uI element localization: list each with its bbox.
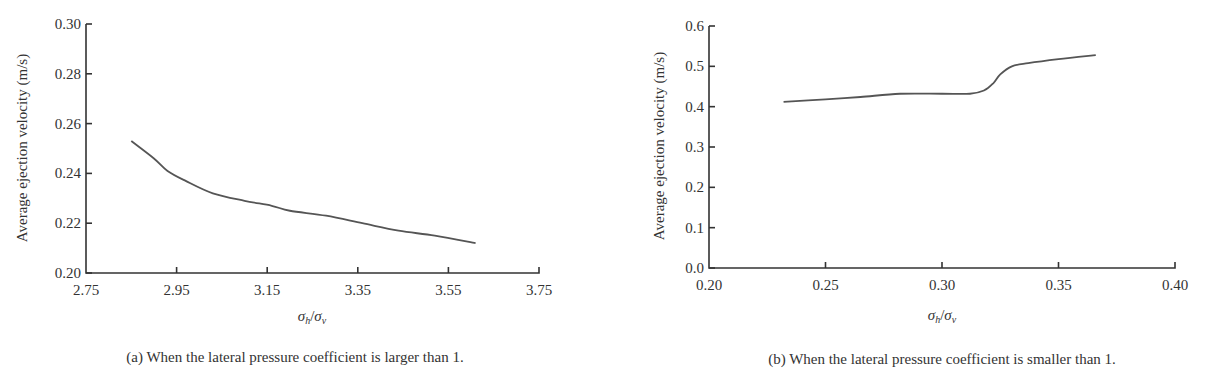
chart-a-y-axis-title: Average ejection velocity (m/s) <box>14 54 31 242</box>
figure-canvas: 0.200.220.240.260.280.302.752.953.153.35… <box>0 0 1208 378</box>
chart-panel-a: 0.200.220.240.260.280.302.752.953.153.35… <box>14 16 552 366</box>
chart-a-x-axis-title: σh/σv <box>298 308 327 326</box>
chart-a-x-tick-label: 3.75 <box>526 282 552 298</box>
chart-b-y-axis-title: Average ejection velocity (m/s) <box>651 52 668 240</box>
chart-b-x-axis-title: σh/σv <box>928 307 957 325</box>
chart-b-y-tick-label: 0.3 <box>685 139 704 155</box>
chart-a-x-tick-label: 2.95 <box>163 282 189 298</box>
chart-b-x-tick-label: 0.40 <box>1162 277 1188 293</box>
chart-b-caption: (b) When the lateral pressure coefficien… <box>768 351 1116 368</box>
chart-b-x-tick-label: 0.30 <box>929 277 955 293</box>
chart-a-caption: (a) When the lateral pressure coefficien… <box>126 349 463 366</box>
chart-b-axis-lines <box>709 26 1175 268</box>
chart-a-y-tick-label: 0.28 <box>55 66 81 82</box>
chart-a-y-tick-label: 0.26 <box>55 116 82 132</box>
chart-b-data-line <box>784 55 1096 102</box>
chart-b-y-tick-label: 0.0 <box>685 260 704 276</box>
chart-b-ticks: 0.00.10.20.30.40.50.60.200.250.300.350.4… <box>685 18 1188 293</box>
chart-b-y-tick-label: 0.6 <box>685 18 704 34</box>
chart-b-y-tick-label: 0.5 <box>685 58 704 74</box>
chart-a-axes <box>86 24 539 273</box>
chart-a-y-tick-label: 0.24 <box>55 165 82 181</box>
chart-b-y-tick-label: 0.4 <box>685 99 704 115</box>
chart-b-axes <box>709 26 1175 268</box>
chart-a-x-tick-label: 3.15 <box>254 282 280 298</box>
chart-b-x-tick-label: 0.35 <box>1045 277 1071 293</box>
chart-a-y-tick-label: 0.22 <box>55 215 81 231</box>
chart-b-y-tick-label: 0.2 <box>685 179 704 195</box>
chart-a-ticks: 0.200.220.240.260.280.302.752.953.153.35… <box>55 16 552 298</box>
chart-a-x-tick-label: 2.75 <box>73 282 99 298</box>
chart-panel-b: 0.00.10.20.30.40.50.60.200.250.300.350.4… <box>651 18 1188 368</box>
chart-b-x-tick-label: 0.20 <box>696 277 722 293</box>
chart-a-y-tick-label: 0.20 <box>55 265 81 281</box>
chart-a-data-line <box>131 141 475 243</box>
chart-b-y-tick-label: 0.1 <box>685 220 704 236</box>
chart-a-y-tick-label: 0.30 <box>55 16 81 32</box>
chart-a-axis-lines <box>86 24 539 273</box>
chart-b-x-tick-label: 0.25 <box>812 277 838 293</box>
chart-a-x-tick-label: 3.55 <box>435 282 461 298</box>
chart-a-x-tick-label: 3.35 <box>345 282 371 298</box>
